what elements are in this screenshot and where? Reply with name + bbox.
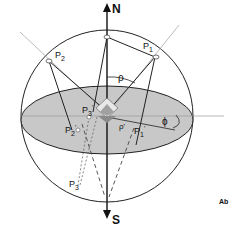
p1-point (153, 55, 159, 59)
corner-label: Ab (219, 198, 228, 205)
stereographic-projection-diagram: N S P2 P1 P3' P2' P1' P3 ρ ρ' ϕ Ab (0, 0, 230, 229)
north-arrow-icon (103, 3, 111, 12)
south-label: S (112, 213, 120, 227)
p3-label: P3 (69, 179, 79, 191)
p2prime-point (76, 128, 80, 132)
p2-point (46, 59, 52, 63)
rho-prime-label: ρ' (119, 122, 126, 131)
phi-label: ϕ (162, 116, 168, 127)
north-pole-point (104, 35, 110, 39)
p2-label: P2 (55, 50, 65, 62)
north-label: N (112, 2, 121, 16)
south-arrow-icon (103, 210, 111, 219)
rho-label: ρ (118, 72, 124, 83)
